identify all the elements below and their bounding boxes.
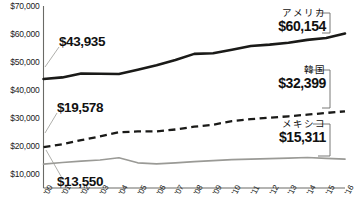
y-tick-10000: $10,000: [10, 169, 39, 179]
y-tick-70000: $70,000: [10, 1, 39, 11]
callout-label-mexico: メキシコ: [279, 119, 326, 129]
callout-value-mexico: $15,311: [279, 129, 326, 145]
leader-line-america: [45, 47, 59, 67]
start-value-korea: $19,578: [57, 100, 103, 115]
leader-line-korea: [45, 113, 57, 133]
callout-korea: 韓国 $32,399: [278, 65, 326, 92]
y-tick-40000: $40,000: [10, 85, 39, 95]
callout-value-america: $60,154: [278, 18, 326, 34]
start-value-america: $43,935: [59, 34, 105, 49]
callout-label-korea: 韓国: [278, 65, 326, 75]
y-tick-30000: $30,000: [10, 113, 39, 123]
y-tick-20000: $20,000: [10, 141, 39, 151]
callout-label-america: アメリカ: [278, 8, 326, 18]
series-line-mexico: [44, 157, 346, 164]
y-tick-60000: $60,000: [10, 29, 39, 39]
y-tick-50000: $50,000: [10, 57, 39, 67]
callout-america: アメリカ $60,154: [278, 8, 326, 35]
callout-mexico: メキシコ $15,311: [279, 119, 326, 146]
callout-value-korea: $32,399: [278, 75, 326, 91]
start-value-mexico: $13,550: [57, 174, 103, 189]
